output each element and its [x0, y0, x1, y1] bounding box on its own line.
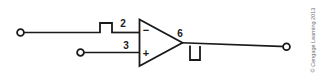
output-terminal[interactable]: [283, 43, 290, 50]
copyright-text: © Cengage Learning 2013: [310, 8, 316, 72]
resistor-box-input: [100, 23, 112, 33]
noninverting-input-branch: [77, 49, 139, 56]
circuit-schematic: 2 3 6 − +: [0, 0, 320, 80]
copyright-notice: © Cengage Learning 2013: [307, 0, 319, 80]
wire-output: [182, 43, 286, 47]
noninverting-polarity-symbol: +: [143, 47, 149, 59]
resistor-box-output: [190, 46, 200, 60]
pin-label-output: 6: [177, 28, 183, 39]
inverting-polarity-symbol: −: [143, 24, 149, 36]
pin-label-inverting: 2: [120, 18, 126, 29]
input-terminal-noninverting[interactable]: [77, 49, 84, 56]
input-terminal-inverting[interactable]: [17, 29, 24, 36]
opamp-circuit-figure: 2 3 6 − + © Cengage Learning 2013: [0, 0, 320, 80]
pin-label-noninverting: 3: [123, 40, 129, 51]
output-branch: [182, 43, 290, 60]
